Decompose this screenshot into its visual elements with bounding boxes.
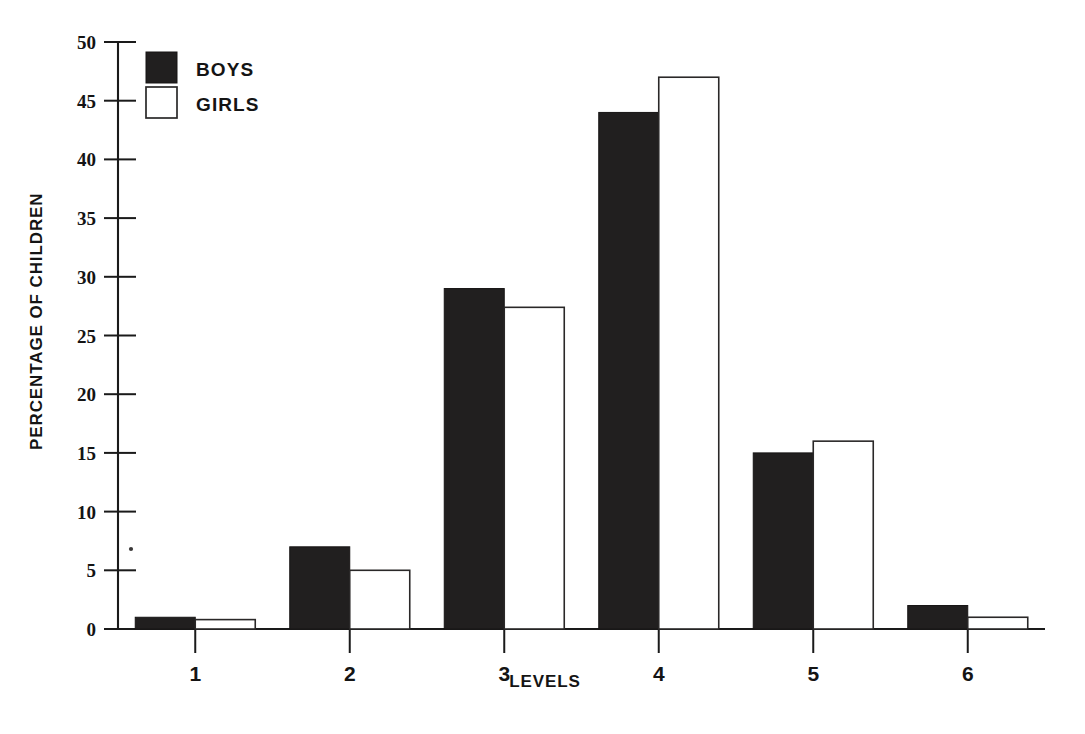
legend-swatch-girls — [146, 87, 177, 118]
x-tick-marks — [195, 629, 968, 653]
legend-swatch-boys — [146, 52, 177, 83]
y-tick-label: 20 — [77, 384, 96, 405]
bar-boys-level-5 — [753, 453, 813, 629]
y-tick-label: 50 — [77, 32, 96, 53]
stray-mark-dot — [129, 547, 133, 551]
y-tick-label: 15 — [77, 443, 96, 464]
y-tick-label: 5 — [87, 560, 97, 581]
bar-girls-level-6 — [968, 617, 1028, 629]
x-tick-labels: 123456 — [189, 662, 973, 685]
bar-girls-level-4 — [659, 77, 719, 629]
y-tick-label: 10 — [77, 502, 96, 523]
x-tick-label-5: 5 — [807, 662, 819, 685]
x-tick-label-6: 6 — [962, 662, 974, 685]
bar-boys-level-2 — [290, 547, 350, 629]
y-tick-label: 45 — [77, 91, 96, 112]
y-axis-group: 05101520253035404550 PERCENTAGE OF CHILD… — [27, 32, 136, 640]
bar-girls-level-3 — [504, 307, 564, 629]
legend: BOYS GIRLS — [146, 52, 260, 118]
bar-boys-level-1 — [135, 617, 195, 629]
y-tick-labels: 05101520253035404550 — [77, 32, 96, 640]
x-axis-group: 123456 LEVELS — [108, 629, 1045, 691]
bar-boys-level-4 — [599, 112, 659, 629]
x-tick-label-4: 4 — [653, 662, 665, 685]
bar-girls-level-5 — [813, 441, 873, 629]
y-tick-label: 0 — [87, 619, 97, 640]
bar-boys-level-3 — [444, 289, 504, 629]
chart-canvas: 05101520253035404550 PERCENTAGE OF CHILD… — [0, 0, 1085, 734]
legend-label-boys: BOYS — [196, 59, 254, 80]
x-tick-label-2: 2 — [344, 662, 356, 685]
y-axis-title: PERCENTAGE OF CHILDREN — [27, 193, 46, 451]
x-tick-label-1: 1 — [189, 662, 201, 685]
bar-boys-level-6 — [908, 606, 968, 629]
legend-label-girls: GIRLS — [196, 94, 260, 115]
y-tick-label: 35 — [77, 208, 96, 229]
y-tick-label: 30 — [77, 267, 96, 288]
bar-chart-figure: 05101520253035404550 PERCENTAGE OF CHILD… — [0, 0, 1085, 734]
y-tick-label: 25 — [77, 326, 96, 347]
bar-girls-level-2 — [350, 570, 410, 629]
bar-girls-level-1 — [195, 620, 255, 629]
y-tick-marks — [104, 42, 136, 629]
bars-group — [135, 77, 1028, 629]
y-tick-label: 40 — [77, 149, 96, 170]
x-axis-title: LEVELS — [509, 672, 581, 691]
